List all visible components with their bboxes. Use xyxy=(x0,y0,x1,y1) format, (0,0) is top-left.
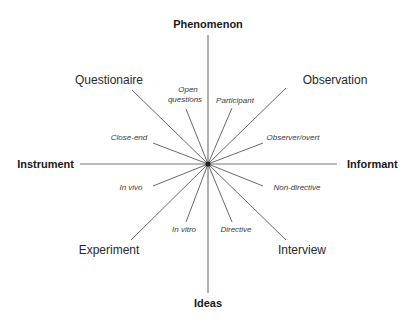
axis-label-phenomenon: Phenomenon xyxy=(173,18,243,30)
spoke-in-vivo xyxy=(153,164,208,186)
sub-label-in-vitro: In vitro xyxy=(172,225,197,234)
sub-label-questions: questions xyxy=(168,95,202,104)
sub-label-observer-overt: Observer/overt xyxy=(267,133,321,142)
spoke-directive xyxy=(208,164,232,222)
sub-label-non-directive: Non-directive xyxy=(273,183,321,192)
sub-label-in-vivo: In vivo xyxy=(119,183,143,192)
axis-label-ideas: Ideas xyxy=(194,297,222,309)
sub-label-participant: Participant xyxy=(216,96,255,105)
method-label-questionaire: Questionaire xyxy=(75,73,143,87)
axis-label-instrument: Instrument xyxy=(17,158,74,170)
spoke-participant xyxy=(208,108,232,164)
research-methods-diagram: Phenomenon Ideas Instrument Informant Qu… xyxy=(0,0,417,325)
spoke-observer-overt xyxy=(208,143,263,164)
center-dot xyxy=(205,161,210,166)
axis-label-informant: Informant xyxy=(347,158,398,170)
spoke-open-questions xyxy=(186,109,208,164)
sub-label-close-end: Close-end xyxy=(111,133,148,142)
method-label-interview: Interview xyxy=(278,243,326,257)
spoke-experiment xyxy=(131,164,208,240)
method-label-observation: Observation xyxy=(303,73,368,87)
method-label-experiment: Experiment xyxy=(79,243,140,257)
sub-label-open: Open xyxy=(178,85,198,94)
spoke-in-vitro xyxy=(186,164,208,222)
sub-label-directive: Directive xyxy=(220,225,252,234)
spoke-close-end xyxy=(153,143,208,164)
